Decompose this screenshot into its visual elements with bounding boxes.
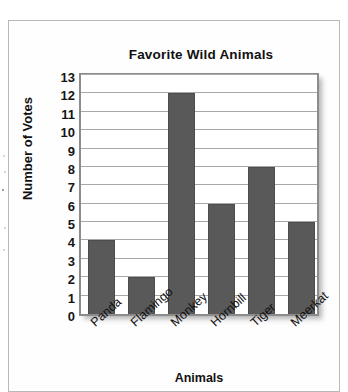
y-axis-tick: 2 [43, 273, 75, 286]
y-axis-tick: 10 [43, 126, 75, 139]
y-axis-tick: 5 [43, 218, 75, 231]
y-axis-tick: 4 [43, 236, 75, 249]
scanned-page-sheet: Favorite Wild Animals 131211109876543210… [8, 20, 340, 392]
x-axis-tick-labels: PandaFlamingoMonkeyHornbillTigerMeerkat [79, 317, 319, 369]
y-axis-tick: 7 [43, 181, 75, 194]
y-axis-tick: 6 [43, 199, 75, 212]
y-axis-tick: 3 [43, 254, 75, 267]
x-axis-title: Animals [79, 371, 319, 385]
y-axis-tick: 13 [43, 71, 75, 84]
y-axis-title: Number of Votes [20, 69, 35, 229]
y-axis-tick-labels: 131211109876543210 [43, 73, 75, 316]
bar [168, 93, 195, 314]
y-axis-tick: 9 [43, 144, 75, 157]
y-axis-tick: 8 [43, 162, 75, 175]
y-axis-tick: 1 [43, 291, 75, 304]
plot-area [79, 73, 319, 316]
y-axis-tick: 0 [43, 310, 75, 323]
scan-artifact [0, 150, 8, 260]
bar [248, 167, 275, 314]
y-axis-tick: 12 [43, 89, 75, 102]
bar-series [81, 75, 317, 314]
chart-title: Favorite Wild Animals [79, 47, 323, 62]
y-axis-tick: 11 [43, 107, 75, 120]
